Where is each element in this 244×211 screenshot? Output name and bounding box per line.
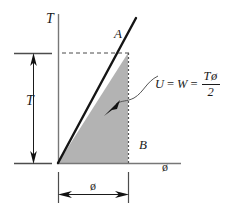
equation-u-term: U — [155, 77, 164, 92]
shaded-strain-energy-area — [58, 53, 128, 163]
point-label-b: B — [139, 138, 147, 151]
equation-denominator: 2 — [206, 85, 216, 99]
equation-equals-second: = — [191, 77, 198, 92]
angle-dimension-label: ø — [90, 180, 96, 192]
equation-equals-first: = — [167, 77, 174, 92]
strain-energy-equation: U = W = Tø 2 — [155, 70, 220, 98]
point-label-a: A — [114, 27, 122, 40]
x-axis-label: ø — [162, 161, 168, 173]
torque-dimension-label: T — [26, 94, 34, 108]
equation-fraction: Tø 2 — [202, 70, 220, 98]
equation-numerator: Tø — [202, 70, 220, 84]
equation-w-term: W — [177, 77, 187, 92]
torque-angle-figure — [0, 0, 244, 211]
y-axis-label: T — [46, 12, 54, 26]
